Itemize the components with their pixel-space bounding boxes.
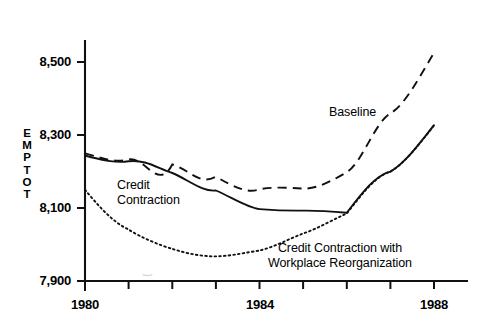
x-axis-ticks xyxy=(85,281,434,291)
x-tick-label-1984: 1984 xyxy=(234,297,286,312)
x-tick-label-1980: 1980 xyxy=(59,297,111,312)
series-label-workplace-reorg: Credit Contraction with Workplace Reorga… xyxy=(268,241,412,270)
y-tick-label-8500: 8,500 xyxy=(23,54,71,69)
series-label-workplace-reorg-line1: Credit Contraction with xyxy=(268,241,412,256)
chart-figure: E M P T O T 8,500 8,300 8,100 7,900 1980… xyxy=(0,0,479,329)
y-axis-title-letter-t1: T xyxy=(19,164,35,176)
series-line-baseline xyxy=(85,53,434,191)
series-label-baseline: Baseline xyxy=(329,105,376,120)
series-label-credit-contraction: Credit Contraction xyxy=(117,178,180,207)
y-axis-ticks xyxy=(77,62,85,281)
x-tick-label-1988: 1988 xyxy=(408,297,460,312)
series-label-workplace-reorg-line2: Workplace Reorganization xyxy=(268,256,412,271)
y-tick-label-7900: 7,900 xyxy=(23,273,71,288)
y-axis-title-letter-o: O xyxy=(19,176,35,188)
y-tick-label-8100: 8,100 xyxy=(23,200,71,215)
series-label-credit-contraction-line1: Credit xyxy=(117,178,180,193)
y-axis-title-letter-p: P xyxy=(19,151,35,163)
y-tick-label-8300: 8,300 xyxy=(23,127,71,142)
line-chart-canvas xyxy=(0,0,479,329)
scan-artifact: ‿ xyxy=(143,263,152,276)
series-label-credit-contraction-line2: Contraction xyxy=(117,193,180,208)
y-axis-title-letter-t2: T xyxy=(19,188,35,200)
